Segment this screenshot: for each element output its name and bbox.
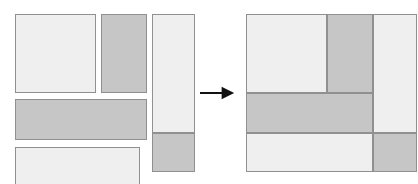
transformation-arrow xyxy=(200,83,236,103)
rect-in-4 xyxy=(15,147,140,184)
rectangle-packing-figure xyxy=(0,0,418,184)
rect-in-3 xyxy=(15,99,147,140)
rect-out-5 xyxy=(246,133,373,172)
rect-in-2 xyxy=(101,14,147,93)
rect-out-2 xyxy=(327,14,373,93)
rect-out-4 xyxy=(246,93,373,133)
rect-out-6 xyxy=(373,133,417,172)
rect-in-5 xyxy=(152,14,195,133)
rect-out-3 xyxy=(373,14,417,133)
rect-in-1 xyxy=(15,14,96,93)
rect-in-6 xyxy=(152,133,195,172)
rect-out-1 xyxy=(246,14,327,93)
